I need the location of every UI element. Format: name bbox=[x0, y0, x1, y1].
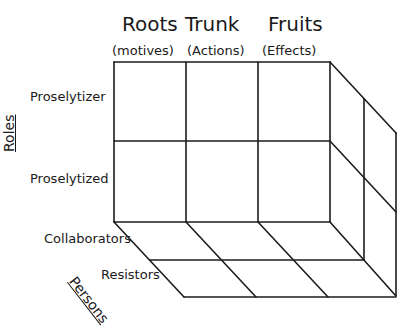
column-subtitle-roots: (motives) bbox=[112, 44, 174, 57]
depth-label-resistors: Resistors bbox=[101, 268, 160, 281]
three-dimensional-matrix-diagram: Roots (motives) Trunk (Actions) Fruits (… bbox=[0, 0, 417, 332]
depth-label-collaborators: Collaborators bbox=[44, 232, 131, 245]
column-subtitle-fruits: (Effects) bbox=[262, 44, 316, 57]
column-title-trunk: Trunk bbox=[185, 14, 239, 34]
row-label-proselytizer: Proselytizer bbox=[30, 90, 106, 103]
row-label-proselytized: Proselytized bbox=[30, 172, 108, 185]
column-title-roots: Roots bbox=[122, 14, 178, 34]
column-subtitle-trunk: (Actions) bbox=[187, 44, 245, 57]
roles-axis-label: Roles bbox=[2, 115, 16, 152]
column-title-fruits: Fruits bbox=[268, 14, 323, 34]
